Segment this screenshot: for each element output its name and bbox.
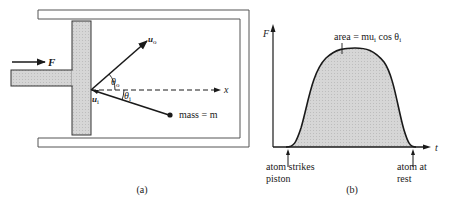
mass-dot-icon: [167, 112, 172, 117]
y-axis-arrow-icon: [271, 24, 276, 32]
panel-a: F x uo mass = m ui θo θi (a): [11, 10, 249, 196]
mass-label: mass = m: [179, 109, 218, 120]
panel-b-caption: (b): [346, 184, 358, 196]
end-marker-arrow-icon: [411, 149, 415, 155]
outgoing-velocity-label: uo: [148, 34, 157, 46]
start-annotation-line1: atom strikes: [266, 161, 315, 172]
end-annotation-line2: rest: [397, 173, 412, 184]
x-axis-arrow-icon: [214, 88, 221, 93]
area-label: area = mui cos θi: [334, 31, 401, 44]
piston-rod: [11, 70, 72, 86]
panel-a-caption: (a): [136, 184, 147, 196]
angle-out-label: θo: [111, 76, 120, 89]
start-annotation-line2: piston: [266, 173, 290, 184]
figure-canvas: F x uo mass = m ui θo θi (a) F t: [0, 0, 450, 207]
force-label: F: [47, 56, 56, 68]
y-axis-label: F: [262, 28, 270, 39]
start-marker-arrow-icon: [286, 149, 290, 155]
incoming-velocity-label: ui: [92, 94, 99, 106]
t-axis-label: t: [435, 142, 438, 153]
panel-b: F t area = mui cos θi atom strikes pisto…: [262, 24, 438, 196]
piston: [11, 21, 91, 135]
piston-joint: [72, 71, 74, 86]
end-annotation-line1: atom at: [397, 161, 427, 172]
x-axis-label: x: [223, 84, 229, 95]
piston-head: [72, 21, 91, 135]
t-axis-arrow-icon: [423, 145, 431, 150]
